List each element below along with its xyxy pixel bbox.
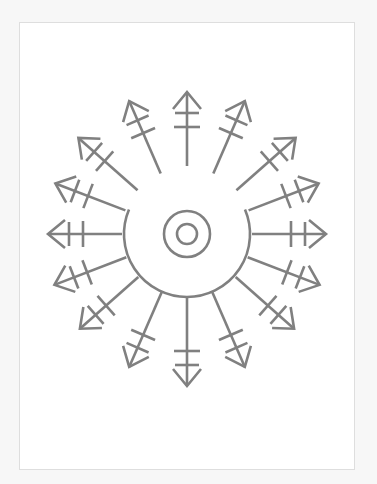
crossbar-2 [219, 128, 243, 138]
stave-shaft [78, 138, 137, 190]
crossbar-2 [131, 128, 155, 138]
arrow-stave-sw [80, 277, 138, 329]
stave-shaft [236, 277, 294, 329]
arrow-stave-e [252, 220, 326, 248]
crossbar-1 [127, 115, 149, 125]
arrow-stave-wsw [54, 257, 126, 292]
arrow-stave-wnw [55, 176, 125, 210]
arrow-stave-ese [248, 257, 320, 292]
arrow-stave-nne [213, 101, 251, 173]
radial-stave-symbol [0, 0, 377, 484]
arrow-stave-ene [249, 176, 319, 210]
stave-shaft [212, 292, 245, 367]
arrow-stave-n [173, 92, 201, 166]
crossbar-1 [127, 343, 149, 353]
arrow-stave-sse [212, 292, 251, 367]
middle-circle [164, 211, 210, 257]
symbol-group [48, 92, 326, 386]
arrow-stave-s [173, 297, 201, 386]
stave-shaft [80, 277, 138, 329]
arrow-stave-w [48, 220, 122, 248]
crossbar-1 [225, 343, 247, 353]
arrow-stave-ssw [123, 292, 162, 367]
crossbar-1 [225, 115, 247, 125]
crossbar-2 [219, 330, 243, 340]
arrow-staves [48, 92, 326, 386]
arrow-stave-se [236, 277, 294, 329]
arrow-stave-nw [78, 138, 137, 190]
arrow-stave-ne [236, 138, 295, 190]
outer-arc [124, 209, 250, 297]
stave-shaft [236, 138, 295, 190]
inner-circle [177, 224, 197, 244]
stave-shaft [129, 292, 162, 367]
crossbar-2 [131, 330, 155, 340]
arrow-stave-nnw [123, 101, 161, 173]
